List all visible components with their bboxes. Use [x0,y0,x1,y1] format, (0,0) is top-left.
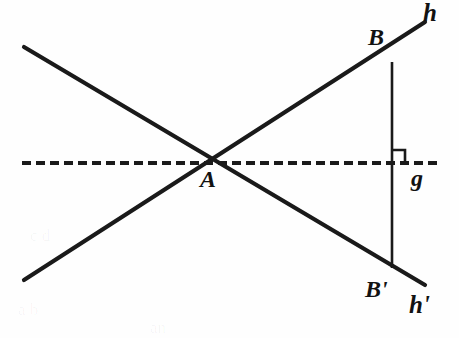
point-label-a: A [200,167,216,191]
geometry-figure: A B B' h h' g a b c d an [0,0,459,338]
line-h [24,22,425,280]
line-h-prime [24,47,425,285]
point-label-b-prime: B' [365,277,388,301]
line-label-g: g [411,166,423,190]
figure-canvas [0,0,459,338]
line-label-h-prime: h' [409,292,430,317]
point-label-b: B [368,25,384,49]
line-label-h: h [423,0,437,25]
